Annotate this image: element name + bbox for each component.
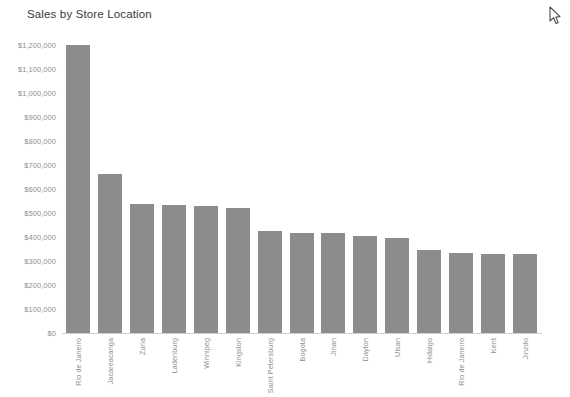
bar[interactable] bbox=[353, 236, 377, 333]
bar[interactable] bbox=[449, 253, 473, 333]
x-axis: Rio de JaneiroJacareacangaZuriaLadenburg… bbox=[62, 336, 541, 397]
bar[interactable] bbox=[321, 233, 345, 333]
x-axis-tick-label: Kingston bbox=[234, 338, 243, 367]
y-axis-tick-label: $400,000 bbox=[24, 233, 56, 242]
y-axis-tick-label: $1,100,000 bbox=[18, 65, 56, 74]
x-axis-tick-label: Saint Petersburg bbox=[266, 338, 275, 393]
x-axis-tick-label: Jacareacanga bbox=[106, 338, 115, 384]
x-axis-tick-label: Kent bbox=[489, 338, 498, 353]
chart-canvas: Sales by Store Location $1,200,000$1,100… bbox=[0, 0, 570, 397]
bar[interactable] bbox=[513, 254, 537, 333]
x-axis-tick-label: Rio de Janeiro bbox=[457, 338, 466, 386]
x-axis-tick-label: Ulsan bbox=[393, 338, 402, 357]
y-axis-tick-label: $1,000,000 bbox=[18, 89, 56, 98]
x-axis-tick-label: Hidalgo bbox=[425, 338, 434, 363]
y-axis-tick-label: $500,000 bbox=[24, 209, 56, 218]
y-axis-tick-label: $600,000 bbox=[24, 185, 56, 194]
bar-series bbox=[62, 45, 541, 333]
y-axis: $1,200,000$1,100,000$1,000,000$900,000$8… bbox=[0, 0, 62, 397]
x-axis-tick-label: Winnipeg bbox=[202, 338, 211, 369]
y-axis-tick-label: $1,200,000 bbox=[18, 41, 56, 50]
bar[interactable] bbox=[194, 206, 218, 333]
x-axis-tick-label: Bogota bbox=[298, 338, 307, 361]
y-axis-tick-label: $900,000 bbox=[24, 113, 56, 122]
bar[interactable] bbox=[290, 233, 314, 333]
y-axis-tick-label: $300,000 bbox=[24, 257, 56, 266]
y-axis-tick-label: $700,000 bbox=[24, 161, 56, 170]
bar[interactable] bbox=[258, 231, 282, 333]
bar[interactable] bbox=[417, 250, 441, 333]
bar[interactable] bbox=[226, 208, 250, 333]
x-axis-tick-label: Zuria bbox=[138, 338, 147, 355]
plot-area bbox=[62, 45, 541, 333]
bar[interactable] bbox=[66, 45, 90, 333]
bar[interactable] bbox=[162, 205, 186, 333]
y-axis-tick-label: $800,000 bbox=[24, 137, 56, 146]
y-axis-tick-label: $200,000 bbox=[24, 281, 56, 290]
x-axis-tick-label: Ladenburg bbox=[170, 338, 179, 373]
bar[interactable] bbox=[385, 238, 409, 333]
y-axis-tick-label: $0 bbox=[48, 329, 56, 338]
y-axis-tick-label: $100,000 bbox=[24, 305, 56, 314]
x-axis-tick-label: Rio de Janeiro bbox=[74, 338, 83, 386]
x-axis-tick-label: Jinan bbox=[329, 338, 338, 356]
x-axis-line bbox=[62, 333, 542, 334]
bar[interactable] bbox=[98, 174, 122, 333]
mouse-pointer-icon bbox=[548, 6, 562, 26]
bar[interactable] bbox=[130, 204, 154, 333]
x-axis-tick-label: Jinzdo bbox=[521, 338, 530, 359]
x-axis-tick-label: Dayton bbox=[361, 338, 370, 361]
bar[interactable] bbox=[481, 254, 505, 333]
